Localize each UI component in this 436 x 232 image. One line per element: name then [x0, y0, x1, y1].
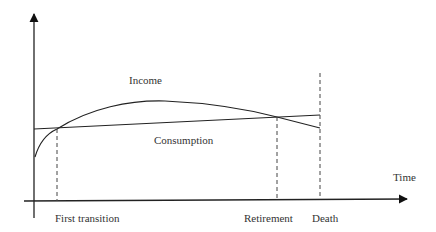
life-cycle-diagram — [0, 0, 436, 232]
retirement-label: Retirement — [244, 213, 293, 224]
x-axis-label: Time — [393, 172, 416, 183]
income-label: Income — [129, 75, 162, 86]
first-transition-label: First transition — [55, 213, 119, 224]
x-axis — [24, 199, 407, 201]
death-label: Death — [312, 213, 338, 224]
consumption-label: Consumption — [154, 135, 213, 146]
